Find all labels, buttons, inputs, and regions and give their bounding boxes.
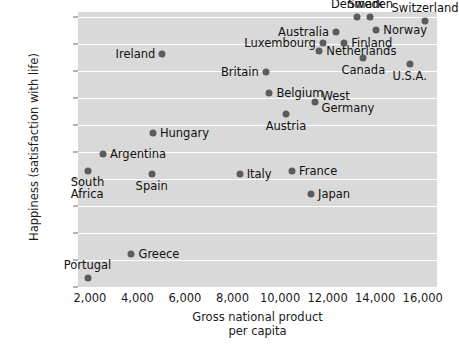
data-point-label: Hungary	[160, 127, 209, 140]
data-point[interactable]	[159, 51, 166, 58]
data-point-label: Canada	[341, 64, 385, 77]
y-tick-mark	[73, 125, 78, 126]
data-point[interactable]	[266, 89, 273, 96]
data-point[interactable]	[354, 14, 361, 21]
data-point-label: Austria	[266, 120, 307, 133]
scatter-plot-figure: Happiness (satisfaction with life) Switz…	[0, 0, 459, 354]
data-point[interactable]	[262, 69, 269, 76]
y-tick-mark	[73, 17, 78, 18]
x-tick-label: 12,000	[308, 291, 348, 305]
data-point[interactable]	[84, 167, 91, 174]
gridline	[78, 260, 437, 261]
data-point[interactable]	[99, 151, 106, 158]
x-axis-title-line2: per capita	[78, 324, 437, 338]
x-axis-title-line1: Gross national product	[78, 310, 437, 324]
data-point-label: Luxembourg	[244, 37, 316, 50]
data-point[interactable]	[84, 275, 91, 282]
data-point-label: Britain	[221, 66, 259, 79]
data-point[interactable]	[373, 27, 380, 34]
data-point[interactable]	[332, 29, 339, 36]
data-point-label: Spain	[136, 180, 168, 193]
data-point-label: Denmark	[331, 0, 384, 11]
data-point-label: Argentina	[110, 148, 166, 161]
data-point-label: France	[299, 164, 337, 177]
y-tick-mark	[73, 71, 78, 72]
y-tick-mark	[73, 179, 78, 180]
gridline	[78, 98, 437, 99]
x-axis-title: Gross national product per capita	[78, 310, 437, 338]
data-point[interactable]	[128, 250, 135, 257]
data-point[interactable]	[236, 170, 243, 177]
gridline	[78, 17, 437, 18]
x-tick-label: 8,000	[216, 291, 249, 305]
x-tick-label: 14,000	[355, 291, 395, 305]
data-point[interactable]	[316, 47, 323, 54]
gridline	[78, 125, 437, 126]
data-point[interactable]	[283, 111, 290, 118]
y-tick-mark	[73, 98, 78, 99]
y-tick-mark	[73, 260, 78, 261]
data-point-label: Switzerland	[392, 1, 459, 14]
data-point[interactable]	[307, 191, 314, 198]
y-tick-mark	[73, 233, 78, 234]
data-point[interactable]	[367, 14, 374, 21]
data-point[interactable]	[149, 129, 156, 136]
data-point-label: Netherlands	[326, 45, 396, 58]
data-point[interactable]	[148, 170, 155, 177]
gridline	[78, 233, 437, 234]
data-point-label: Italy	[247, 168, 272, 181]
data-point-label: Portugal	[64, 259, 112, 272]
y-axis-title: Happiness (satisfaction with life)	[27, 17, 41, 277]
y-tick-mark	[73, 44, 78, 45]
y-tick-mark	[73, 287, 78, 288]
x-tick-label: 2,000	[73, 291, 106, 305]
data-point[interactable]	[319, 40, 326, 47]
data-point[interactable]	[406, 60, 413, 67]
data-point-label: Japan	[318, 188, 350, 201]
gridline	[78, 287, 437, 288]
data-point[interactable]	[288, 167, 295, 174]
plot-area: SwitzerlandSwedenDenmarkNorwayAustraliaF…	[78, 12, 437, 287]
x-tick-label: 6,000	[169, 291, 202, 305]
x-tick-label: 4,000	[121, 291, 154, 305]
data-point-label: West Germany	[322, 89, 375, 114]
data-point-label: Belgium	[276, 87, 323, 100]
y-tick-mark	[73, 152, 78, 153]
data-point-label: Greece	[138, 247, 179, 260]
data-point-label: Norway	[383, 24, 427, 37]
x-tick-label: 16,000	[403, 291, 443, 305]
data-point-label: U.S.A.	[392, 70, 426, 83]
x-tick-label: 10,000	[260, 291, 300, 305]
data-point-label: Ireland	[116, 48, 156, 61]
y-tick-mark	[73, 206, 78, 207]
gridline	[78, 206, 437, 207]
